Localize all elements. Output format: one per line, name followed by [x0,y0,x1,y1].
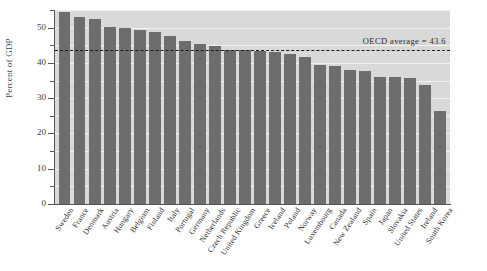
x-axis-line [54,204,451,205]
x-axis-tick-label: Sweden [53,206,75,233]
bar [194,44,206,204]
bar [59,12,71,204]
y-axis-tick-label: 40 [0,57,46,67]
y-axis-tick-label: 30 [0,92,46,102]
bar [434,111,446,204]
x-axis-tick-label: Spain [361,206,379,227]
bar [359,71,371,204]
bar [329,66,341,204]
bar [134,30,146,204]
y-axis-tick [48,28,54,29]
bar [374,77,386,204]
y-axis-tick-label: 50 [0,22,46,32]
y-axis-minor-tick [50,151,54,152]
bar [209,46,221,204]
oecd-average-label: OECD average = 43.6 [363,36,446,46]
bar [314,65,326,204]
y-axis-minor-tick [50,10,54,11]
y-axis-tick-label: 10 [0,163,46,173]
y-axis-tick [48,98,54,99]
y-axis-minor-tick [50,45,54,46]
bar [299,57,311,204]
y-axis-minor-tick [50,186,54,187]
bar [254,51,266,204]
bar [89,19,101,204]
bar [284,54,296,204]
bar [179,41,191,204]
bar [269,52,281,204]
bar [149,32,161,204]
y-axis-tick [48,63,54,64]
y-axis-tick-label: 0 [0,198,46,208]
bar [239,50,251,204]
x-axis-tick-labels: SwedenFranceDenmarkAustriaHungaryBelgium… [55,206,450,270]
bar [74,17,86,204]
y-axis-minor-tick [50,81,54,82]
plot-area: OECD average = 43.6 [55,10,450,204]
y-axis-tick [48,169,54,170]
y-axis-tick [48,133,54,134]
bar [104,27,116,204]
bar-chart-figure: Percent of GDP OECD average = 43.6 01020… [0,0,487,271]
y-axis-minor-tick [50,116,54,117]
bar [389,77,401,204]
y-axis-tick-label: 20 [0,127,46,137]
bar [164,36,176,204]
bar [404,78,416,204]
bar [119,28,131,204]
bar [224,50,236,204]
bar [419,85,431,204]
bar [344,70,356,204]
y-axis-line [54,10,55,205]
oecd-average-line [55,50,450,51]
y-axis-tick [48,204,54,205]
y-axis-title: Percent of GDP [4,0,18,98]
